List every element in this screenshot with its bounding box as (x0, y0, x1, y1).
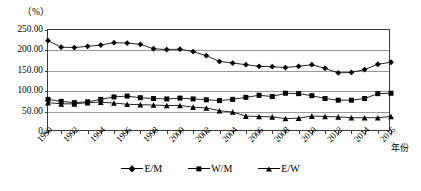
legend-swatch (258, 164, 280, 174)
triangle-marker (266, 166, 272, 171)
x-axis-tick-label: 1992 (61, 125, 80, 144)
legend-label: W/M (211, 163, 232, 174)
x-axis-tick-label: 2010 (299, 125, 318, 144)
x-axis-tick-label: 2006 (246, 125, 265, 144)
x-axis-tick-label: 2004 (220, 125, 239, 144)
legend-label: E/W (281, 163, 299, 174)
square-marker (197, 166, 202, 171)
chart-root: （%） 250.00200.00150.00100.0050.000 19901… (0, 0, 421, 191)
x-axis-tick-label: 1998 (141, 125, 160, 144)
x-axis-tick-label: 1990 (35, 125, 54, 144)
x-axis-tick-label: 2008 (272, 125, 291, 144)
x-axis-title: 年份 (391, 141, 409, 154)
legend-item-w-m[interactable]: W/M (188, 163, 232, 174)
x-axis-tick-label: 2012 (325, 125, 344, 144)
x-axis-tick-label: 2014 (352, 125, 371, 144)
legend-swatch (188, 164, 210, 174)
x-axis-tick-label: 2002 (193, 125, 212, 144)
legend-swatch (121, 164, 143, 174)
chart-legend: E/MW/ME/W (0, 163, 421, 174)
x-axis-tick-label: 2000 (167, 125, 186, 144)
x-axis-tick-label: 1994 (88, 125, 107, 144)
legend-item-e-w[interactable]: E/W (258, 163, 299, 174)
legend-item-e-m[interactable]: E/M (121, 163, 162, 174)
diamond-marker (129, 165, 136, 172)
x-axis-tick-label: 1996 (114, 125, 133, 144)
legend-label: E/M (144, 163, 162, 174)
